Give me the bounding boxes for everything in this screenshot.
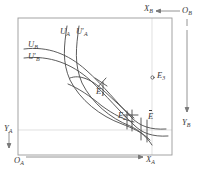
- origin-b-label: OB: [182, 6, 192, 15]
- point-label-e1: E1: [96, 87, 104, 96]
- curve-label-u-a-prime: U′A: [76, 27, 88, 36]
- point-label-e2: E2: [118, 111, 126, 120]
- edgeworth-box-figure: OA OB XA XB YA YB UA U′A UB U′B E1 E2 E …: [0, 0, 205, 182]
- point-markers: [95, 76, 154, 142]
- point-label-e-bar: E: [148, 112, 153, 121]
- origin-a-label: OA: [14, 156, 24, 165]
- curve-label-u-a: UA: [60, 27, 70, 36]
- y-axis-b-label: YB: [182, 118, 190, 127]
- point-label-e3: E3: [157, 71, 165, 80]
- x-axis-b-label: XB: [144, 4, 153, 13]
- curve-label-u-b-prime: U′B: [28, 52, 40, 61]
- x-axis-a-label: XA: [146, 155, 155, 164]
- y-axis-a-label: YA: [4, 124, 12, 133]
- curve-u-b-prime: [24, 57, 168, 136]
- curve-u-b: [24, 48, 166, 129]
- curve-label-u-b: UB: [28, 40, 38, 49]
- e3-marker: [151, 76, 154, 79]
